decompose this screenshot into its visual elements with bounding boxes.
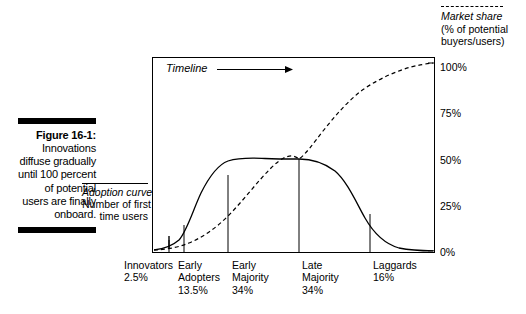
- market-share-curve-line: [154, 63, 433, 250]
- adoption-curve-subtitle-1: Number of first: [82, 198, 148, 210]
- xlabel-laggards-percent: 16%: [373, 271, 417, 283]
- xlabel-late-majority-percent: 34%: [302, 284, 339, 296]
- ytick-label-0: 0%: [440, 247, 455, 258]
- y-axis-ticks: [428, 63, 434, 251]
- xlabel-early-majority-name-2: Majority: [232, 271, 269, 283]
- xlabel-innovators-percent: 2.5%: [124, 271, 173, 283]
- ytick-label-75: 75%: [440, 108, 461, 119]
- xlabel-early-majority-percent: 34%: [232, 284, 269, 296]
- adoption-curve-line: [154, 158, 433, 251]
- chart-plot-area: [152, 57, 435, 253]
- xlabel-early-adopters-percent: 13.5%: [178, 284, 220, 296]
- figure-16-1: Figure 16-1: Innovations diffuse gradual…: [0, 0, 526, 314]
- xlabel-early-adopters: Early Adopters 13.5%: [178, 259, 220, 296]
- xlabel-late-majority-name-2: Majority: [302, 271, 339, 283]
- market-share-dashed-rule: [441, 6, 503, 7]
- arrow-right-icon: [217, 65, 295, 74]
- xlabel-early-majority: Early Majority 34%: [232, 259, 269, 296]
- market-share-subtitle-1: (% of potential: [441, 23, 523, 36]
- xlabel-late-majority: Late Majority 34%: [302, 259, 339, 296]
- chart-svg: [153, 58, 434, 252]
- segment-dividers: [169, 159, 370, 252]
- xlabel-early-adopters-name-2: Adopters: [178, 271, 220, 283]
- xlabel-laggards-name: Laggards: [373, 259, 417, 271]
- adoption-curve-annotation: Adoption curve Number of first time user…: [82, 183, 148, 222]
- figure-number: Figure 16-1:: [18, 129, 96, 142]
- xlabel-late-majority-name-1: Late: [302, 259, 339, 271]
- timeline-label-text: Timeline: [166, 62, 207, 74]
- adoption-curve-subtitle-2: time users: [82, 210, 148, 222]
- ytick-label-50: 50%: [440, 155, 461, 166]
- market-share-subtitle-2: buyers/users): [441, 35, 523, 48]
- caption-rule-bottom: [18, 227, 96, 233]
- market-share-title: Market share: [441, 10, 523, 23]
- adoption-curve-title: Adoption curve: [82, 186, 148, 198]
- ytick-label-100: 100%: [440, 62, 467, 73]
- xlabel-early-majority-name-1: Early: [232, 259, 269, 271]
- market-share-annotation: Market share (% of potential buyers/user…: [441, 6, 523, 48]
- adoption-rule: [82, 183, 148, 184]
- xlabel-innovators-name: Innovators: [124, 259, 173, 271]
- timeline-annotation: Timeline: [166, 62, 295, 74]
- xlabel-laggards: Laggards 16%: [373, 259, 417, 284]
- xlabel-innovators: Innovators 2.5%: [124, 259, 173, 284]
- ytick-label-25: 25%: [440, 201, 461, 212]
- xlabel-early-adopters-name-1: Early: [178, 259, 220, 271]
